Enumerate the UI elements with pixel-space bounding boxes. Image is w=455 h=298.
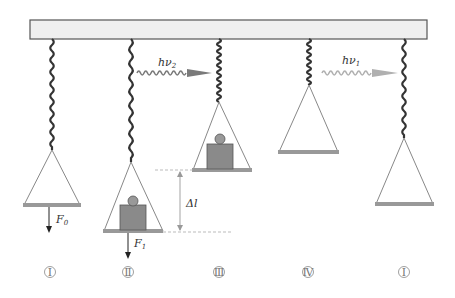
delta-l-label: Δl xyxy=(185,197,198,210)
stage-label: Ⅲ xyxy=(214,266,225,279)
pan-stage-2 xyxy=(103,162,163,233)
force-arrow-f1 xyxy=(125,233,131,259)
mass-block xyxy=(120,205,146,230)
mass-knob xyxy=(128,196,138,206)
photon-label-nu2: hν2 xyxy=(158,56,177,70)
stage-label: Ⅱ xyxy=(124,266,131,279)
pan-stage-3 xyxy=(192,102,252,172)
force-arrow-f0 xyxy=(46,207,52,233)
photon-nu2 xyxy=(137,69,212,77)
stage-label: Ⅰ xyxy=(48,266,52,279)
mass-knob xyxy=(215,134,225,144)
spring-stage-1 xyxy=(50,39,54,150)
mass-block xyxy=(207,144,233,169)
force-label-f1: F1 xyxy=(133,237,146,251)
ceiling-bar xyxy=(30,20,427,39)
force-label-f0: F0 xyxy=(55,213,69,227)
pan-stage-4 xyxy=(278,85,339,154)
stage-label: Ⅰ xyxy=(402,266,406,279)
stage-label: Ⅳ xyxy=(303,266,315,279)
photon-nu1 xyxy=(322,69,398,77)
spring-stage-5 xyxy=(402,39,406,138)
delta-l-arrow xyxy=(177,171,183,231)
pan-stage-5 xyxy=(375,138,434,206)
spring-stage-4 xyxy=(307,39,311,85)
photon-label-nu1: hν1 xyxy=(342,54,360,68)
spring-stage-2 xyxy=(129,39,133,162)
pan-stage-1 xyxy=(23,150,81,207)
spring-stage-3 xyxy=(217,39,221,102)
spring-balance-diagram: hν2 hν1 F0 F1 Δl ⅠⅡⅢⅣⅠ xyxy=(0,0,455,298)
